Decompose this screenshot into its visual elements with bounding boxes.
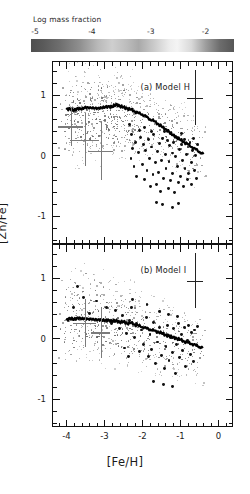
- y-axis-label: [Zn/Fe]: [0, 203, 9, 244]
- x-axis-label: [Fe/H]: [0, 455, 250, 469]
- y-tick-label-b-1: 0: [24, 334, 46, 344]
- figure-root: Log mass fraction -5-4-3-2 (a) Model H (…: [0, 0, 250, 494]
- x-tick-label-4: 0: [216, 431, 221, 441]
- y-tick-label-a-0: 1: [24, 90, 46, 100]
- y-tick-label-a-2: -1: [24, 211, 46, 221]
- colorbar-tick-2: -3: [147, 27, 154, 36]
- colorbar-title: Log mass fraction: [33, 15, 101, 24]
- y-tick-label-a-1: 0: [24, 151, 46, 161]
- colorbar-tick-1: -4: [88, 27, 95, 36]
- x-tick-label-2: -2: [138, 431, 146, 441]
- panel-model-h: (a) Model H: [52, 61, 233, 244]
- colorbar-gradient: [31, 39, 234, 52]
- x-tick-label-3: -1: [176, 431, 184, 441]
- x-tick-label-1: -3: [100, 431, 108, 441]
- colorbar-tick-0: -5: [31, 27, 38, 36]
- panel-b-title: (b) Model I: [140, 265, 186, 275]
- colorbar-tick-3: -2: [202, 27, 209, 36]
- colorbar-block: Log mass fraction -5-4-3-2: [0, 0, 250, 56]
- panel-a-title: (a) Model H: [140, 82, 190, 92]
- x-tick-label-0: -4: [62, 431, 70, 441]
- y-tick-label-b-2: -1: [24, 394, 46, 404]
- panel-model-i: (b) Model I: [52, 244, 233, 427]
- y-tick-label-b-0: 1: [24, 273, 46, 283]
